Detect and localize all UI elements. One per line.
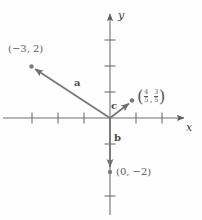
vector-diagram-figure: y x (−3, 2) (0, −2) a b c ( 4 5 , 3 5 ): [0, 0, 202, 220]
open-paren: (: [137, 88, 144, 105]
fraction-x-denominator: 5: [144, 96, 148, 104]
x-axis-label: x: [186, 122, 192, 133]
vector-a: [29, 64, 110, 118]
point-c-dot: [130, 98, 134, 102]
point-b-dot: [108, 170, 112, 174]
point-b-label: (0, −2): [116, 167, 151, 177]
vector-c-label: c: [111, 101, 117, 111]
fraction-y-numerator: 3: [154, 89, 158, 96]
x-axis: [3, 113, 184, 124]
point-a-dot: [29, 64, 33, 68]
coordinate-plane: [0, 0, 202, 220]
vector-b-label: b: [114, 133, 121, 143]
vector-a-label: a: [74, 78, 80, 88]
vector-b: [108, 118, 112, 174]
fraction-x-numerator: 4: [144, 89, 148, 96]
y-axis-label: y: [118, 10, 124, 21]
point-c-label: ( 4 5 , 3 5 ): [137, 88, 165, 105]
close-paren: ): [159, 88, 166, 105]
fraction-y-denominator: 5: [154, 96, 158, 104]
point-a-label: (−3, 2): [8, 44, 43, 54]
